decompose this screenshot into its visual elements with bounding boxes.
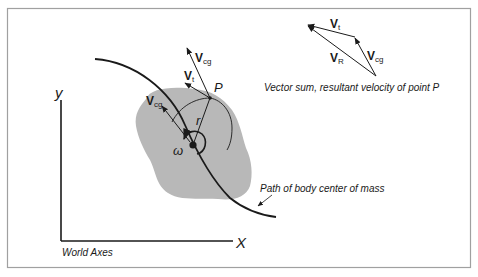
center-of-mass-dot <box>189 141 196 148</box>
vector-sum-caption: Vector sum, resultant velocity of point … <box>264 82 440 93</box>
rigid-body-velocity-diagram: y X World Axes Path of body center of ma… <box>0 0 478 277</box>
omega-label: ω <box>173 143 183 158</box>
path-caption: Path of body center of mass <box>260 183 385 194</box>
radius-label: r <box>196 113 201 128</box>
world-axes-caption: World Axes <box>62 247 113 258</box>
x-axis-label: X <box>235 234 247 251</box>
point-p-label: P <box>214 80 223 95</box>
